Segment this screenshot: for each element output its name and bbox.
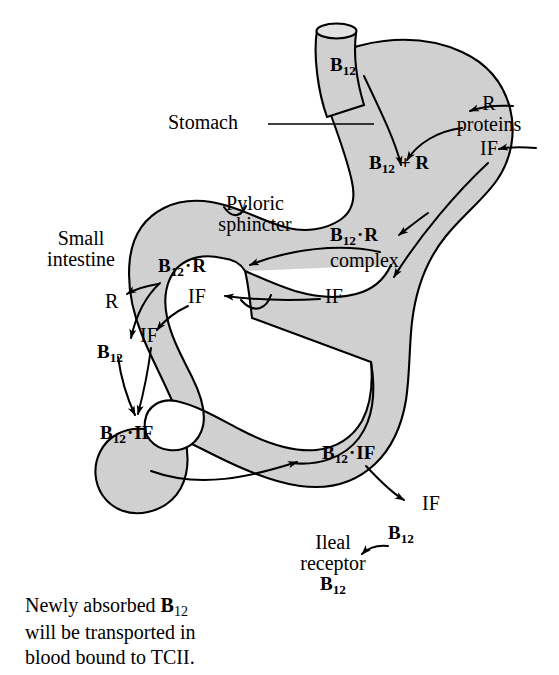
label-if-stomach: IF <box>480 138 498 159</box>
b12-plus-r-sub: 12 <box>382 161 395 176</box>
b12dotr-duo-tail: R <box>192 255 206 276</box>
b12-plus-r-tail: + R <box>395 152 429 173</box>
arrow-b12-to-b12dotif <box>118 357 135 415</box>
label-b12-dot-if-jejunum: B12·IF <box>100 423 153 446</box>
b12-esophagus-sub: 12 <box>343 63 356 78</box>
b12dotif-jej-sub: 12 <box>113 431 126 446</box>
ileal-receptor-line-2: receptor <box>282 553 384 574</box>
caption-line-1-text: Newly absorbed <box>25 594 161 616</box>
arrow-b12dotif-to-if <box>366 466 404 500</box>
arrow-if-from-wall <box>499 147 536 149</box>
b12dotif-jej-tail: IF <box>134 422 153 443</box>
complex-sub: 12 <box>343 233 356 248</box>
b12-free-base: B <box>97 341 110 362</box>
b12-plus-r-base: B <box>369 152 382 173</box>
label-if-duodenum-left: IF <box>140 325 158 346</box>
complex-base: B <box>330 224 343 245</box>
b12dotif-ile-tail: IF <box>356 442 375 463</box>
caption-line-1: Newly absorbed B12 <box>25 593 196 620</box>
caption-b12-sub: 12 <box>174 604 188 619</box>
label-if-released-ileum: IF <box>422 493 440 514</box>
b12-absorbed-sub: 12 <box>401 531 414 546</box>
ileal-receptor-line-1: Ileal <box>282 532 384 553</box>
caption-line-2: will be transported in <box>25 620 196 644</box>
b12-dot-r-complex-line-2: complex <box>330 250 399 271</box>
label-pyloric-sphincter: Pyloric sphincter <box>190 193 320 235</box>
label-stomach: Stomach <box>168 112 238 133</box>
label-b12-dot-r-duodenum: B12·R <box>158 256 206 279</box>
label-r-released: R <box>105 291 118 312</box>
complex-tail: R <box>364 224 378 245</box>
b12-absorbed-base: B <box>388 522 401 543</box>
label-b12-dot-if-ileum: B12·IF <box>322 443 375 466</box>
b12-dot-r-complex-line-1: B12·R <box>330 225 399 248</box>
label-if-antrum: IF <box>325 286 343 307</box>
b12-esophagus-base: B <box>330 54 343 75</box>
b12-free-sub: 12 <box>110 350 123 365</box>
label-b12-free: B12 <box>97 342 123 365</box>
small-intestine-line-2: intestine <box>22 249 140 270</box>
b12dotif-ile-sub: 12 <box>335 451 348 466</box>
ileal-receptor-b12-base: B <box>320 573 333 594</box>
label-b12-absorbed: B12 <box>388 523 414 546</box>
b12dotif-ile-base: B <box>322 442 335 463</box>
label-if-duodenum-right: IF <box>188 286 206 307</box>
ileal-receptor-b12-sub: 12 <box>333 582 346 597</box>
label-r-proteins: R proteins <box>452 93 526 135</box>
figure-caption: Newly absorbed B12 will be transported i… <box>25 593 196 669</box>
pyloric-sphincter-line-1: Pyloric <box>190 193 320 214</box>
ileal-receptor-line-3: B12 <box>282 574 384 597</box>
label-b12-dot-r-complex: B12·R complex <box>330 225 399 271</box>
label-b12-plus-r: B12 + R <box>369 153 429 176</box>
arrow-if-to-b12dotif <box>138 348 151 414</box>
caption-line-3: blood bound to TCII. <box>25 645 196 669</box>
b12-absorption-diagram: Stomach Pyloric sphincter Small intestin… <box>0 0 559 675</box>
b12dotr-duo-sub: 12 <box>171 264 184 279</box>
label-ileal-receptor: Ileal receptor B12 <box>282 532 384 597</box>
pyloric-sphincter-line-2: sphincter <box>190 214 320 235</box>
b12dotr-duo-base: B <box>158 255 171 276</box>
r-proteins-line-2: proteins <box>452 114 526 135</box>
label-small-intestine: Small intestine <box>22 228 140 270</box>
r-proteins-line-1: R <box>452 93 526 114</box>
label-b12-esophagus: B12 <box>330 55 356 78</box>
small-intestine-line-1: Small <box>22 228 140 249</box>
b12dotif-jej-base: B <box>100 422 113 443</box>
esophagus-opening <box>317 24 357 39</box>
caption-b12-base: B <box>161 594 174 616</box>
